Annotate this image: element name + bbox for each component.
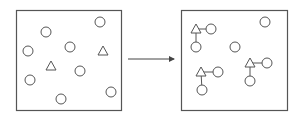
circle-shape [213,67,223,77]
complex-group [245,58,272,86]
circle-shape [206,24,216,34]
circle-shape [197,85,207,95]
left-box [17,11,122,111]
circle-shape [260,17,270,27]
triangle-shape [98,46,108,55]
circle-shape [191,42,201,52]
complex-group [196,67,223,95]
circle-shape [106,87,116,97]
circle-shape [75,66,85,76]
circle-shape [56,94,66,104]
circle-shape [245,76,255,86]
diagram-canvas [0,0,303,122]
left-panel [17,11,122,111]
circle-shape [23,46,33,56]
circle-shape [230,42,240,52]
complex-group [191,24,216,52]
circle-shape [95,17,105,27]
circle-shape [65,42,75,52]
right-panel [182,11,288,111]
triangle-shape [46,61,56,70]
circle-shape [41,27,51,37]
circle-shape [262,58,272,68]
circle-shape [25,75,35,85]
